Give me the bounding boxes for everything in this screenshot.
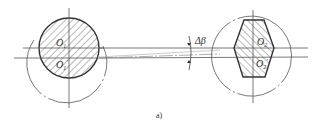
centerlines	[99, 48, 308, 58]
left-shaft-section: O1 O1'	[14, 8, 107, 108]
misalignment-diagram: O1 O1' Δβ O2 O2' a)	[0, 0, 324, 134]
angle-label: Δβ	[194, 35, 206, 46]
angle-marker: Δβ	[187, 35, 206, 70]
figure-caption: a)	[156, 111, 163, 120]
angle-arc	[189, 36, 191, 70]
right-shaft-section: O2 O2'	[212, 10, 292, 103]
